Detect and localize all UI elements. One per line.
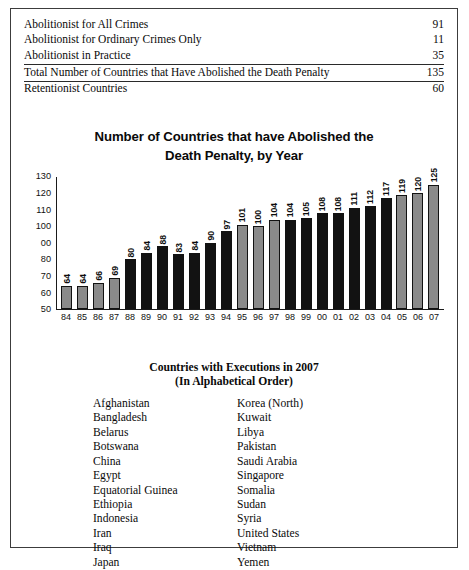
bar <box>381 198 392 309</box>
country-name: Iraq <box>93 541 231 555</box>
bar-value-label: 100 <box>254 210 263 224</box>
y-axis-tick: 110 <box>36 206 51 215</box>
bar-value-label: 83 <box>174 243 183 253</box>
country-name: Japan <box>93 556 231 570</box>
bar-slot: 119 <box>394 177 410 309</box>
x-axis-tick: 97 <box>266 313 282 322</box>
country-name: Indonesia <box>93 512 231 526</box>
x-axis-tick: 98 <box>282 313 298 322</box>
x-axis-tick: 04 <box>378 313 394 322</box>
country-column-left: AfghanistanBangladeshBelarusBotswanaChin… <box>93 397 231 570</box>
country-name: Bangladesh <box>93 411 231 425</box>
bar <box>333 213 344 309</box>
country-name: Korea (North) <box>237 397 375 411</box>
country-name: Libya <box>237 426 375 440</box>
country-name: United States <box>237 527 375 541</box>
bar-slot: 66 <box>91 177 107 309</box>
summary-row-value: 60 <box>402 81 444 97</box>
bar <box>428 185 439 310</box>
bar-chart-section: Number of Countries that have Abolished … <box>11 127 457 327</box>
bar <box>77 286 88 309</box>
summary-row-label: Abolitionist for All Crimes <box>24 17 402 32</box>
bar-value-label: 84 <box>190 241 199 251</box>
bar <box>269 220 280 310</box>
summary-table-body: Abolitionist for All Crimes91Abolitionis… <box>24 17 444 97</box>
bar-value-label: 97 <box>222 220 231 230</box>
country-name: Equatorial Guinea <box>93 484 231 498</box>
country-name: Iran <box>93 527 231 541</box>
summary-row: Abolitionist for All Crimes91 <box>24 17 444 32</box>
country-name: Pakistan <box>237 440 375 454</box>
bar <box>396 195 407 310</box>
summary-row-value: 35 <box>402 48 444 64</box>
bar-slot: 64 <box>59 177 75 309</box>
bar-slot: 80 <box>123 177 139 309</box>
country-name: Somalia <box>237 484 375 498</box>
bar-value-label: 101 <box>238 208 247 222</box>
bar <box>349 208 360 309</box>
x-axis: 8485868788899091929394959697989900010203… <box>56 313 444 322</box>
summary-row-value: 11 <box>402 32 444 47</box>
country-name: Sudan <box>237 498 375 512</box>
bar-slot: 108 <box>314 177 330 309</box>
bar <box>109 278 120 310</box>
bar <box>157 246 168 309</box>
country-name: Ethiopia <box>93 498 231 512</box>
bar-value-label: 80 <box>126 248 135 258</box>
bar <box>253 226 264 309</box>
x-axis-tick: 96 <box>250 313 266 322</box>
x-axis-tick: 91 <box>170 313 186 322</box>
y-axis-tick: 100 <box>36 223 51 232</box>
bar-value-label: 117 <box>382 182 391 196</box>
country-columns: AfghanistanBangladeshBelarusBotswanaChin… <box>93 397 375 570</box>
bar <box>205 243 216 310</box>
x-axis-tick: 00 <box>314 313 330 322</box>
bar-value-label: 90 <box>206 231 215 241</box>
bar <box>141 253 152 310</box>
x-axis-tick: 07 <box>426 313 442 322</box>
y-axis-tick: 130 <box>36 173 51 182</box>
plot-area: 6464666980848883849097101100104104105108… <box>56 177 444 310</box>
bar-value-label: 125 <box>430 168 439 182</box>
bar-slot: 88 <box>155 177 171 309</box>
x-axis-tick: 03 <box>362 313 378 322</box>
bar-value-label: 104 <box>286 203 295 217</box>
bar-slot: 97 <box>219 177 235 309</box>
country-column-right: Korea (North)KuwaitLibyaPakistanSaudi Ar… <box>237 397 375 570</box>
y-axis: 1301201101000080706050 <box>24 177 54 310</box>
bar <box>317 213 328 309</box>
x-axis-tick: 93 <box>202 313 218 322</box>
x-axis-tick: 92 <box>186 313 202 322</box>
chart-title-line-1: Number of Countries that have Abolished … <box>95 129 374 144</box>
x-axis-tick: 87 <box>106 313 122 322</box>
bar-slot: 100 <box>250 177 266 309</box>
country-list-heading: Countries with Executions in 2007 (In Al… <box>11 361 457 390</box>
bar <box>173 254 184 309</box>
bar <box>412 193 423 309</box>
summary-row-label: Total Number of Countries that Have Abol… <box>24 64 402 81</box>
bar-value-label: 69 <box>111 266 120 276</box>
bar-slot: 90 <box>203 177 219 309</box>
y-axis-tick: 00 <box>41 239 51 248</box>
bar-slot: 84 <box>139 177 155 309</box>
x-axis-tick: 94 <box>218 313 234 322</box>
bar-value-label: 66 <box>95 271 104 281</box>
country-name: Yemen <box>237 556 375 570</box>
x-axis-tick: 90 <box>154 313 170 322</box>
country-name: Saudi Arabia <box>237 455 375 469</box>
country-list-heading-line-1: Countries with Executions in 2007 <box>149 361 318 374</box>
x-axis-tick: 85 <box>74 313 90 322</box>
bar <box>221 231 232 309</box>
bar-value-label: 105 <box>302 202 311 216</box>
executions-country-list: Countries with Executions in 2007 (In Al… <box>11 361 457 570</box>
x-axis-tick: 86 <box>90 313 106 322</box>
y-axis-tick: 60 <box>41 289 51 298</box>
bar <box>301 218 312 309</box>
bar <box>365 206 376 309</box>
bar-slot: 111 <box>346 177 362 309</box>
bar-value-label: 104 <box>270 203 279 217</box>
y-axis-tick: 120 <box>36 189 51 198</box>
chart-title: Number of Countries that have Abolished … <box>11 127 457 165</box>
x-axis-tick: 06 <box>410 313 426 322</box>
summary-row: Retentionist Countries60 <box>24 81 444 97</box>
